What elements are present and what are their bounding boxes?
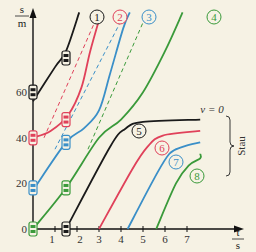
curve-label-8: 8 — [190, 169, 204, 183]
curve-label-5: 5 — [132, 124, 146, 138]
car-icon — [29, 85, 37, 99]
svg-text:1: 1 — [94, 11, 100, 23]
svg-text:m: m — [18, 17, 27, 29]
x-tick-label: 6 — [162, 233, 168, 245]
svg-text:4: 4 — [211, 11, 217, 23]
y-axis-arrow-icon — [30, 8, 37, 18]
car-icon — [62, 181, 70, 195]
svg-text:8: 8 — [194, 170, 200, 182]
curve-label-1: 1 — [90, 10, 104, 24]
svg-text:6: 6 — [159, 142, 165, 154]
car-icon — [62, 113, 70, 127]
axes: 1234567 0204060 s m t s — [15, 3, 244, 251]
svg-text:2: 2 — [117, 11, 123, 23]
svg-text:7: 7 — [173, 156, 179, 168]
svg-text:s: s — [236, 239, 240, 251]
curve-2-dashed- — [44, 12, 99, 137]
brace-icon — [226, 116, 234, 176]
stau-label: Stau — [235, 136, 247, 156]
curves — [33, 12, 201, 229]
car-icon — [29, 131, 37, 145]
x-tick-label: 7 — [184, 233, 190, 245]
traffic-jam-diagram: 1234567 0204060 s m t s 12345678 v = 0 S… — [0, 0, 256, 252]
curve-label-6: 6 — [155, 141, 169, 155]
car-icon — [62, 222, 70, 236]
y-tick-label: 60 — [16, 86, 28, 98]
x-tick-label: 1 — [49, 233, 55, 245]
curve-label-3: 3 — [142, 10, 156, 24]
x-tick-label: 5 — [140, 233, 146, 245]
y-tick-label: 0 — [22, 223, 28, 235]
car-icon — [62, 51, 70, 65]
svg-text:t: t — [236, 226, 239, 238]
svg-text:s: s — [20, 3, 24, 15]
v-zero-label: v = 0 — [200, 103, 224, 115]
x-tick-label: 4 — [118, 233, 124, 245]
curve-5 — [66, 120, 200, 229]
x-axis-label: t s — [232, 226, 244, 251]
svg-text:5: 5 — [136, 125, 142, 137]
car-icon — [29, 181, 37, 195]
y-axis-label: s m — [15, 3, 29, 29]
curve-label-7: 7 — [169, 155, 183, 169]
car-icon — [29, 222, 37, 236]
x-tick-label: 2 — [77, 233, 83, 245]
curve-label-4: 4 — [207, 10, 221, 24]
svg-text:3: 3 — [146, 11, 152, 23]
curve-7 — [128, 142, 201, 229]
car-icon — [62, 135, 70, 149]
x-tick-label: 3 — [96, 233, 102, 245]
curve-1 — [33, 12, 79, 101]
y-tick-label: 20 — [16, 177, 28, 189]
y-tick-label: 40 — [16, 132, 28, 144]
jam-annotation: v = 0 Stau — [200, 103, 247, 176]
curve-label-2: 2 — [113, 10, 127, 24]
